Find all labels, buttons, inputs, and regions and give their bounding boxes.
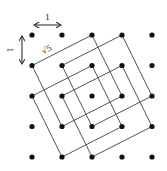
lattice-dot xyxy=(119,63,124,68)
lattice-dot xyxy=(119,32,124,37)
lattice-dot xyxy=(59,154,64,159)
lattice-dot xyxy=(119,93,124,98)
lattice-dot xyxy=(59,32,64,37)
lattice-squares-diagram: 1 1 √5 xyxy=(0,0,167,171)
horizontal-unit-label: 1 xyxy=(45,13,50,22)
lattice-dot xyxy=(119,124,124,129)
lattice-dot xyxy=(89,63,94,68)
lattice-dot xyxy=(59,93,64,98)
lattice-dot xyxy=(29,154,34,159)
lattice-dot xyxy=(149,124,154,129)
lattice-dot xyxy=(59,124,64,129)
diagonal-side-label: √5 xyxy=(40,43,53,56)
lattice-dot xyxy=(29,32,34,37)
lattice-dot xyxy=(29,93,34,98)
lattice-dot xyxy=(89,124,94,129)
lattice-dot xyxy=(149,63,154,68)
lattice-dot xyxy=(59,63,64,68)
square-2 xyxy=(62,35,152,127)
square-4 xyxy=(62,66,152,158)
lattice-dot xyxy=(89,32,94,37)
lattice-dot xyxy=(149,93,154,98)
lattice-dot xyxy=(29,63,34,68)
lattice-dot xyxy=(119,154,124,159)
square-3 xyxy=(32,66,122,158)
vertical-unit-label: 1 xyxy=(6,47,15,52)
lattice-dot xyxy=(89,154,94,159)
lattice-dot xyxy=(89,93,94,98)
lattice-dot xyxy=(29,124,34,129)
lattice-dot xyxy=(149,154,154,159)
lattice-dot xyxy=(149,32,154,37)
